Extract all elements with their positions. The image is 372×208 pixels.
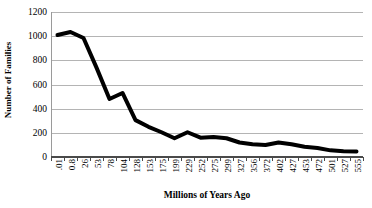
x-tick-label: 153: [144, 159, 156, 189]
x-tick-label: 0.8: [66, 159, 78, 189]
x-tick-label: 427: [287, 159, 299, 189]
x-tick-label: 527: [339, 159, 351, 189]
x-tick-label: 229: [183, 159, 195, 189]
y-tick-label: 800: [33, 55, 47, 65]
y-axis-title-text: Number of Families: [3, 42, 13, 118]
x-tick-label: 402: [274, 159, 286, 189]
y-tick-label: 1000: [28, 31, 47, 41]
x-tick-label: 501: [326, 159, 338, 189]
data-series-line: [51, 12, 363, 157]
x-tick-label: 128: [131, 159, 143, 189]
x-tick-label: .01: [53, 159, 65, 189]
x-axis-title: Millions of Years Ago: [51, 190, 363, 200]
x-tick-label: 299: [222, 159, 234, 189]
x-tick-label: 199: [170, 159, 182, 189]
x-tick-label: 252: [196, 159, 208, 189]
x-tick-label: 472: [313, 159, 325, 189]
x-tick-label: 327: [235, 159, 247, 189]
x-axis-tick-labels: .010.82653781041281531751992292522752993…: [51, 161, 363, 191]
y-tick-label: 200: [33, 128, 47, 138]
x-tick-label: 372: [261, 159, 273, 189]
x-tick-label: 53: [92, 159, 104, 189]
x-tick-label: 26: [79, 159, 91, 189]
x-tick-label: 453: [300, 159, 312, 189]
y-tick-label: 0: [42, 152, 47, 162]
x-tick-label: 555: [352, 159, 364, 189]
y-tick-label: 400: [33, 104, 47, 114]
x-tick-label: 356: [248, 159, 260, 189]
y-tick-label: 600: [33, 80, 47, 90]
x-tick-label: 104: [118, 159, 130, 189]
x-tick-label: 175: [157, 159, 169, 189]
x-tick-label: 78: [105, 159, 117, 189]
y-axis-tick-labels: 020040060080010001200: [14, 0, 50, 165]
y-tick-label: 1200: [28, 7, 47, 17]
plot-area: [51, 12, 363, 157]
x-tick-label: 275: [209, 159, 221, 189]
chart-container: Number of Families 020040060080010001200…: [0, 0, 372, 208]
